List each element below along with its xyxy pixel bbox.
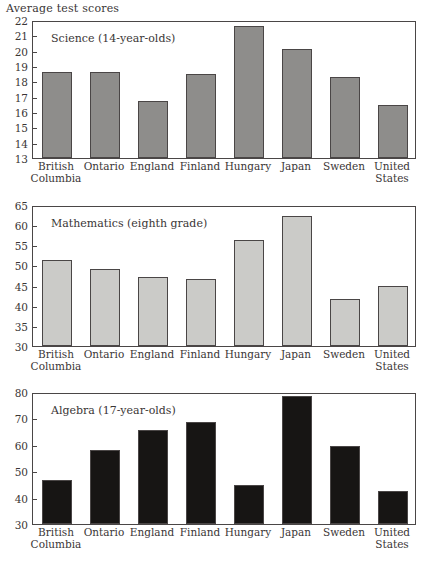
x-tick-label: UnitedStates	[374, 527, 410, 550]
bar	[330, 299, 360, 346]
bar	[186, 279, 216, 346]
y-tick-label: 21	[15, 30, 28, 42]
bar	[234, 485, 264, 524]
x-tick-label-line1: British	[38, 526, 74, 538]
y-tick-label: 70	[15, 413, 28, 425]
figure-axis-caption: Average test scores	[6, 2, 119, 15]
chart-title-1: Science (14-year-olds)	[51, 32, 175, 45]
y-tick-mark	[32, 499, 37, 500]
y-tick-label: 80	[15, 387, 28, 399]
y-tick-label: 40	[15, 493, 28, 505]
y-tick-label: 55	[15, 240, 28, 252]
chart-title-2: Mathematics (eighth grade)	[51, 217, 207, 230]
bar	[282, 49, 312, 158]
x-tick-label: UnitedStates	[374, 161, 410, 184]
bar	[90, 450, 120, 524]
y-tick-mark	[32, 419, 37, 420]
y-tick-mark	[32, 113, 37, 114]
x-tick-label: Ontario	[84, 161, 125, 173]
x-tick-label: Japan	[281, 349, 311, 361]
x-tick-label: Japan	[281, 527, 311, 539]
y-tick-label: 65	[15, 200, 28, 212]
bar	[186, 74, 216, 158]
x-tick-label: BritishColumbia	[31, 161, 82, 184]
x-tick-label-line2: States	[374, 539, 410, 551]
y-tick-label: 19	[15, 61, 28, 73]
x-tick-label: Sweden	[323, 527, 365, 539]
y-tick-label: 13	[15, 153, 28, 165]
y-tick-label: 50	[15, 260, 28, 272]
y-tick-label: 16	[15, 107, 28, 119]
x-tick-label-line1: England	[130, 348, 174, 360]
x-tick-label-line1: Japan	[281, 348, 311, 360]
x-tick-label: England	[130, 349, 174, 361]
y-tick-mark	[32, 67, 37, 68]
bar	[378, 286, 408, 346]
x-tick-label-line2: Columbia	[31, 361, 82, 373]
bar	[234, 26, 264, 158]
x-tick-label-line2: Columbia	[31, 173, 82, 185]
y-tick-mark	[32, 128, 37, 129]
x-tick-label: Sweden	[323, 161, 365, 173]
bar	[330, 77, 360, 158]
x-tick-label: Hungary	[225, 527, 272, 539]
y-tick-label: 14	[15, 138, 28, 150]
x-tick-label: Ontario	[84, 527, 125, 539]
bar	[138, 101, 168, 158]
x-tick-label-line1: Finland	[180, 526, 221, 538]
x-tick-label: Finland	[180, 161, 221, 173]
plot-area-1: Science (14-year-olds)	[32, 21, 416, 159]
y-tick-mark	[32, 98, 37, 99]
y-tick-label: 35	[15, 321, 28, 333]
bar	[186, 422, 216, 524]
y-tick-mark	[32, 144, 37, 145]
chart-title-3: Algebra (17-year-olds)	[51, 404, 176, 417]
x-tick-label-line1: Ontario	[84, 160, 125, 172]
bar	[330, 446, 360, 524]
x-tick-label: Finland	[180, 527, 221, 539]
y-tick-mark	[32, 446, 37, 447]
x-tick-label-line1: British	[38, 348, 74, 360]
x-tick-label: Ontario	[84, 349, 125, 361]
y-tick-mark	[32, 36, 37, 37]
y-tick-label: 17	[15, 92, 28, 104]
x-tick-label-line2: Columbia	[31, 539, 82, 551]
y-tick-mark	[32, 266, 37, 267]
y-tick-label: 22	[15, 15, 28, 27]
y-tick-mark	[32, 226, 37, 227]
y-tick-mark	[32, 82, 37, 83]
x-tick-label: Japan	[281, 161, 311, 173]
y-tick-label: 45	[15, 281, 28, 293]
x-tick-label: Hungary	[225, 349, 272, 361]
bar	[378, 491, 408, 524]
bar	[282, 216, 312, 346]
y-tick-label: 30	[15, 519, 28, 531]
x-tick-label-line1: United	[374, 526, 410, 538]
y-tick-mark	[32, 52, 37, 53]
x-tick-label-line1: United	[374, 348, 410, 360]
y-tick-label: 60	[15, 440, 28, 452]
x-tick-label-line1: Japan	[281, 526, 311, 538]
bar	[42, 72, 72, 158]
y-tick-label: 40	[15, 301, 28, 313]
y-tick-label: 30	[15, 341, 28, 353]
y-tick-mark	[32, 327, 37, 328]
bar	[378, 105, 408, 158]
bar	[42, 260, 72, 346]
x-tick-label: Finland	[180, 349, 221, 361]
bar	[282, 396, 312, 524]
x-tick-label-line1: Ontario	[84, 526, 125, 538]
y-tick-label: 18	[15, 76, 28, 88]
x-tick-label: England	[130, 527, 174, 539]
x-tick-label-line1: United	[374, 160, 410, 172]
x-tick-label: Sweden	[323, 349, 365, 361]
x-tick-label-line1: Finland	[180, 348, 221, 360]
bar	[138, 430, 168, 524]
plot-area-3: Algebra (17-year-olds)	[32, 393, 416, 525]
x-tick-label: BritishColumbia	[31, 527, 82, 550]
y-tick-label: 50	[15, 466, 28, 478]
x-tick-label: England	[130, 161, 174, 173]
x-tick-label-line1: Hungary	[225, 526, 272, 538]
x-tick-label-line1: Ontario	[84, 348, 125, 360]
x-tick-label: BritishColumbia	[31, 349, 82, 372]
